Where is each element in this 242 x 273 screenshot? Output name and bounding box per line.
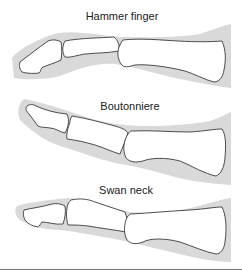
panel-swan-neck: Swan neck [15,184,231,262]
panel-boutonniere: Boutonniere [18,99,231,185]
panel-label-boutonniere: Boutonniere [100,100,159,112]
finger-deformity-diagram: Hammer finger Boutonniere Swan neck [0,0,242,273]
panel-hammer-finger: Hammer finger [12,10,231,88]
panel-label-swan-neck: Swan neck [99,184,153,196]
panel-label-hammer-finger: Hammer finger [86,10,159,22]
